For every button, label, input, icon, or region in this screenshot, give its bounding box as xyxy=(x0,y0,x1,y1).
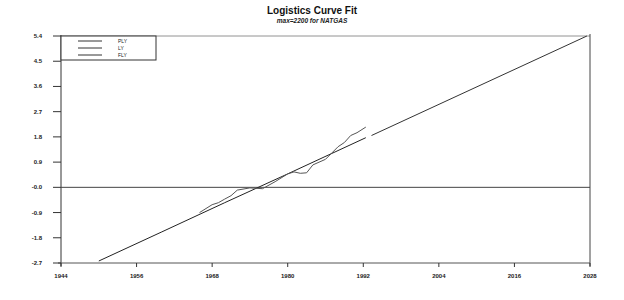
y-tick-label: 1.8 xyxy=(34,134,43,140)
y-tick-label: -1.8 xyxy=(32,235,43,241)
x-tick-label: 1980 xyxy=(281,273,295,279)
y-tick-label: -2.7 xyxy=(32,260,43,266)
x-tick-label: 2028 xyxy=(583,273,597,279)
y-tick-label: 3.6 xyxy=(34,83,43,89)
y-tick-label: -0.0 xyxy=(32,184,43,190)
x-tick-label: 2016 xyxy=(508,273,522,279)
x-tick-label: 1968 xyxy=(205,273,219,279)
x-tick-label: 1944 xyxy=(54,273,68,279)
data-series xyxy=(99,36,587,261)
y-tick-label: -0.9 xyxy=(32,210,43,216)
series-fly xyxy=(372,36,587,136)
y-tick-label: 2.7 xyxy=(34,109,43,115)
y-tick-label: 5.4 xyxy=(34,33,43,39)
x-tick-label: 1956 xyxy=(130,273,144,279)
legend: PLYLYFLY xyxy=(61,36,156,60)
series-ply xyxy=(99,138,366,261)
y-tick-label: 4.5 xyxy=(34,58,43,64)
y-tick-label: 0.9 xyxy=(34,159,43,165)
plot-area: 5.44.53.62.71.80.9-0.0-0.9-1.8-2.7194419… xyxy=(0,0,624,300)
legend-box xyxy=(61,36,156,60)
x-tick-label: 1992 xyxy=(357,273,371,279)
legend-label-ly: LY xyxy=(118,45,124,51)
x-tick-label: 2004 xyxy=(432,273,446,279)
legend-label-ply: PLY xyxy=(118,38,128,44)
legend-label-fly: FLY xyxy=(118,52,127,58)
series-ly xyxy=(200,127,366,213)
